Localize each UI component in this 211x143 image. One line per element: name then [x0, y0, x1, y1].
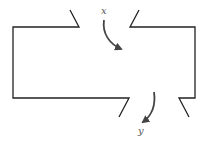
outflow-label: y — [137, 125, 144, 136]
boundary-left — [13, 10, 129, 117]
outflow-arrow-icon — [143, 92, 154, 122]
boundary-right — [130, 10, 195, 117]
control-volume-diagram: x y — [0, 0, 211, 143]
inflow-label: x — [101, 5, 107, 16]
inflow-arrow-icon — [104, 20, 121, 49]
